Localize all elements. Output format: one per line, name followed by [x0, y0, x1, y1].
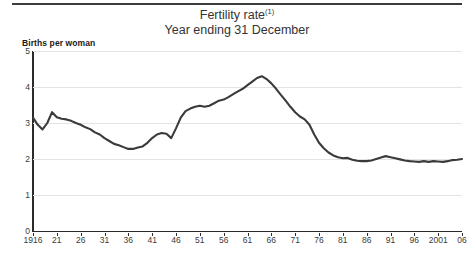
x-axis-tick-label: 26: [76, 235, 85, 245]
x-axis-tick-label: 2001: [429, 235, 448, 245]
x-axis-tick-label: 76: [314, 235, 323, 245]
chart-title-footnote-marker: (1): [265, 7, 274, 16]
x-axis-tick-label: 36: [124, 235, 133, 245]
chart-title: Fertility rate(1): [0, 8, 474, 23]
x-axis-tick-label: 46: [171, 235, 180, 245]
plot-area: [33, 51, 462, 231]
x-axis-tick-label: 66: [267, 235, 276, 245]
x-axis-tick-label: 06: [457, 235, 466, 245]
x-axis-tick-label: 96: [410, 235, 419, 245]
x-axis-tick-label: 61: [243, 235, 252, 245]
y-axis-tick-label: 1: [6, 190, 30, 200]
x-axis-tick-label: 86: [362, 235, 371, 245]
series-path: [33, 76, 462, 162]
fertility-rate-line-series: [33, 51, 462, 231]
x-axis-tick-label: 71: [290, 235, 299, 245]
chart-title-text: Fertility rate: [200, 8, 265, 22]
x-axis-tick-label: 21: [52, 235, 61, 245]
chart-subtitle: Year ending 31 December: [0, 23, 474, 38]
x-axis-tick-label: 41: [147, 235, 156, 245]
x-axis-tick-label: 51: [195, 235, 204, 245]
x-axis-tick-label: 1916: [24, 235, 43, 245]
x-axis-tick-labels: 1916212631364146515661667176818691962001…: [0, 233, 474, 253]
x-axis-tick-label: 56: [219, 235, 228, 245]
y-axis-tick-label: 3: [6, 118, 30, 128]
x-axis-tick-label: 91: [386, 235, 395, 245]
y-axis-title: Births per woman: [22, 38, 95, 48]
y-axis-tick-label: 2: [6, 154, 30, 164]
chart-screenshot: Fertility rate(1) Year ending 31 Decembe…: [0, 0, 474, 266]
y-axis-tick-label: 4: [6, 82, 30, 92]
chart-header: Fertility rate(1) Year ending 31 Decembe…: [0, 8, 474, 38]
y-axis-tick-label: 5: [6, 46, 30, 56]
x-axis-tick-label: 81: [338, 235, 347, 245]
x-axis-tick-label: 31: [100, 235, 109, 245]
y-axis-tick-labels: 012345: [0, 0, 30, 266]
top-border-rule: [12, 3, 462, 5]
